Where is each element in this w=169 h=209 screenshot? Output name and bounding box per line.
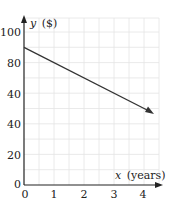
svg-text:40: 40 xyxy=(7,118,21,131)
series-line xyxy=(24,47,154,114)
x-axis-label: x (years) xyxy=(115,169,166,182)
svg-text:0: 0 xyxy=(22,188,29,201)
svg-text:2: 2 xyxy=(81,188,88,201)
svg-text:20: 20 xyxy=(7,149,21,162)
svg-text:3: 3 xyxy=(111,188,118,201)
grid xyxy=(24,18,159,185)
axis-labels: y ($) x (years) xyxy=(29,17,166,182)
axes xyxy=(21,15,163,188)
y-axis-label: y ($) xyxy=(29,17,57,30)
line-chart: 100 80 40 40 20 0 0 1 2 3 4 y ($) x (yea… xyxy=(0,0,169,209)
svg-text:1: 1 xyxy=(51,188,58,201)
line-arrow-icon xyxy=(145,107,154,115)
y-tick-labels: 100 80 40 40 20 0 xyxy=(0,26,21,191)
y-axis-arrow-icon xyxy=(21,15,27,23)
svg-text:100: 100 xyxy=(0,26,21,39)
svg-text:80: 80 xyxy=(7,57,21,70)
svg-text:4: 4 xyxy=(140,188,147,201)
x-tick-labels: 0 1 2 3 4 xyxy=(22,188,147,201)
svg-text:40: 40 xyxy=(7,88,21,101)
svg-text:0: 0 xyxy=(14,178,21,191)
